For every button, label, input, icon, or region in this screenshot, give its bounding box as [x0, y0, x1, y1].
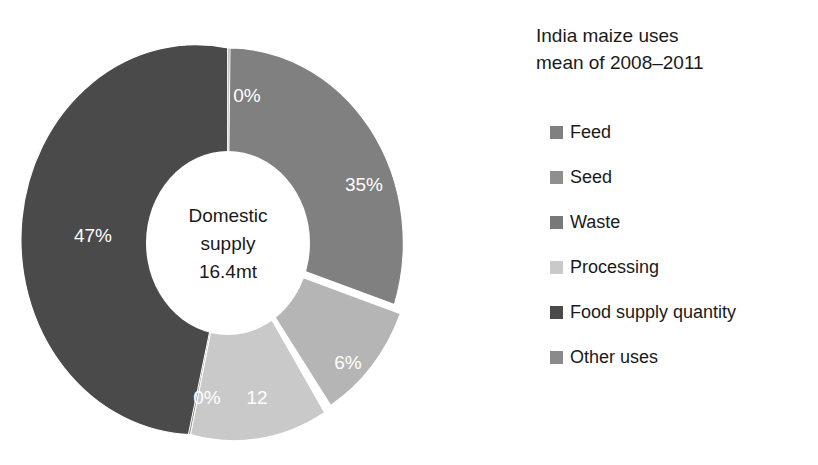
center-label-line1: Domestic — [188, 205, 267, 226]
legend-swatch-icon — [550, 261, 563, 274]
slice-label-food-supply-quantity: 47% — [74, 225, 112, 246]
legend-swatch-icon — [550, 306, 563, 319]
chart-title: India maize uses mean of 2008–2011 — [536, 22, 704, 76]
legend-label: Seed — [570, 167, 612, 188]
legend-swatch-icon — [550, 351, 563, 364]
donut-chart-area: 0% 35% 6% 12 0% 47% Domestic supply 16.4… — [0, 0, 500, 465]
chart-side-panel: India maize uses mean of 2008–2011 Feed … — [528, 0, 818, 465]
center-label-line3: 16.4mt — [199, 261, 258, 282]
legend-swatch-icon — [550, 126, 563, 139]
legend-label: Processing — [570, 257, 659, 278]
legend-item-waste[interactable]: Waste — [550, 200, 818, 245]
donut-chart-figure: 0% 35% 6% 12 0% 47% Domestic supply 16.4… — [0, 0, 818, 465]
legend-item-feed[interactable]: Feed — [550, 110, 818, 155]
legend-label: Food supply quantity — [570, 302, 736, 323]
legend-swatch-icon — [550, 171, 563, 184]
donut-chart-svg: 0% 35% 6% 12 0% 47% Domestic supply 16.4… — [0, 0, 500, 465]
legend-item-other-uses[interactable]: Other uses — [550, 335, 818, 380]
legend-label: Waste — [570, 212, 620, 233]
slice-label-waste: 6% — [334, 352, 362, 373]
legend-item-seed[interactable]: Seed — [550, 155, 818, 200]
legend-label: Feed — [570, 122, 611, 143]
legend-label: Other uses — [570, 347, 658, 368]
legend-swatch-icon — [550, 216, 563, 229]
chart-legend: Feed Seed Waste Processing Food supply q… — [550, 110, 818, 380]
slice-label-other-uses: 0% — [193, 387, 221, 408]
center-label-line2: supply — [201, 233, 256, 254]
slice-label-feed: 35% — [345, 174, 383, 195]
slice-label-seed: 0% — [233, 85, 261, 106]
slice-label-processing: 12 — [246, 387, 267, 408]
legend-item-processing[interactable]: Processing — [550, 245, 818, 290]
legend-item-food-supply-quantity[interactable]: Food supply quantity — [550, 290, 818, 335]
